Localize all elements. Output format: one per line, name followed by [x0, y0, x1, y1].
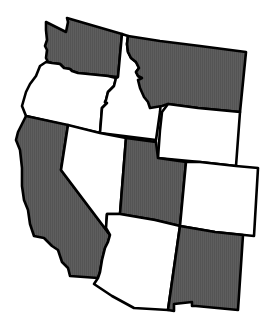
western-us-map: Washington Oregon Idaho Montana Wyoming …: [0, 0, 274, 332]
state-arizona[interactable]: Arizona: [94, 214, 180, 310]
state-wyoming[interactable]: Wyoming: [158, 104, 240, 166]
state-new-mexico[interactable]: New Mexico: [168, 226, 243, 311]
state-colorado[interactable]: Colorado: [180, 162, 258, 236]
